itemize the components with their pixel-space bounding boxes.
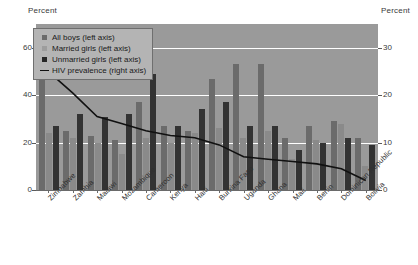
left-tick-label: 60 [8,43,32,52]
right-axis-title: Percent [381,6,410,15]
left-tick-label: 20 [8,138,32,147]
legend-item-label: All boys (left axis) [52,33,115,42]
left-tick-mark [32,143,36,144]
hiv-line-path [48,71,366,180]
right-tick-label: 10 [383,138,407,147]
legend-square-marker-icon [42,46,47,51]
right-tick-label: 30 [383,43,407,52]
right-tick-mark [378,143,382,144]
right-tick-label: 20 [383,90,407,99]
legend-item-married: Married girls (left axis) [38,43,146,54]
right-tick-mark [378,48,382,49]
legend-item-label: Unmarried girls (left axis) [52,55,141,64]
legend-item-boys: All boys (left axis) [38,32,146,43]
legend-item-label: HIV prevalence (right axis) [52,66,146,75]
legend-item-unmarried: Unmarried girls (left axis) [38,54,146,65]
x-axis-labels: ZimbabweZambiaMalawiMozambiqueCameroonKe… [0,190,418,265]
left-tick-label: 40 [8,90,32,99]
legend-square-marker-icon [42,35,47,40]
legend-item-hiv: HIV prevalence (right axis) [38,65,146,76]
left-axis-title: Percent [28,6,57,15]
legend-line-marker-icon [40,70,49,71]
chart-legend: All boys (left axis)Married girls (left … [33,28,153,80]
legend-item-label: Married girls (left axis) [52,44,131,53]
left-tick-mark [32,95,36,96]
right-tick-mark [378,95,382,96]
legend-square-marker-icon [42,57,47,62]
chart-figure: Percent Percent 0204060 0102030 All boys… [0,0,418,265]
x-axis-line [36,190,378,191]
